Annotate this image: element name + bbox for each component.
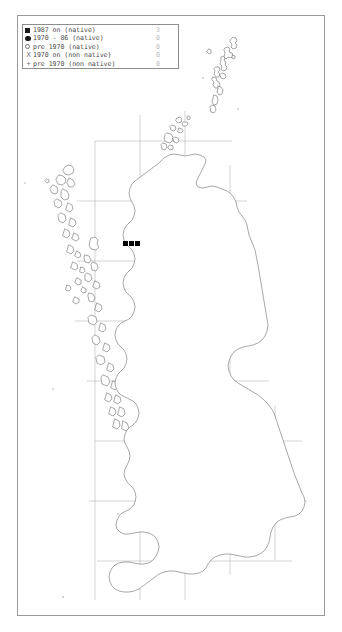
legend-count: 0 (154, 34, 178, 42)
legend-count: 0 (154, 43, 178, 51)
filled-square-icon (24, 26, 33, 34)
cross-icon: X (24, 51, 33, 59)
legend-count: 0 (154, 51, 178, 59)
plus-glyph: + (24, 60, 33, 68)
legend-label: pre 1970 (native) (33, 43, 154, 51)
plus-icon: + (24, 60, 33, 68)
legend-label: 1970 on (non native) (33, 51, 154, 59)
filled-circle-icon (24, 34, 33, 42)
legend-row: 1970 - 86 (native) 0 (24, 34, 178, 42)
map-legend: 1987 on (native) 3 1970 - 86 (native) 0 … (22, 24, 179, 69)
legend-row: X 1970 on (non native) 0 (24, 51, 178, 59)
cross-glyph: X (24, 51, 33, 59)
record-marker (135, 241, 140, 246)
legend-count: 3 (154, 26, 178, 34)
record-marker (129, 241, 134, 246)
legend-count: 0 (154, 60, 178, 68)
map-canvas (17, 15, 325, 616)
legend-row: + pre 1970 (non native) 0 (24, 60, 178, 68)
legend-label: 1970 - 86 (native) (33, 34, 154, 42)
orkney-islands (161, 116, 190, 150)
legend-row: 1987 on (native) 3 (24, 26, 178, 34)
mainland-britain-coastline (109, 154, 305, 592)
record-marker (123, 241, 128, 246)
shetland-islands (207, 37, 237, 113)
distribution-map-figure: 1987 on (native) 3 1970 - 86 (native) 0 … (0, 0, 342, 632)
legend-label: pre 1970 (non native) (33, 60, 154, 68)
open-circle-icon (24, 43, 33, 51)
legend-row: pre 1970 (native) 0 (24, 43, 178, 51)
legend-label: 1987 on (native) (33, 26, 154, 34)
outer-hebrides (45, 165, 86, 304)
record-markers (123, 241, 140, 246)
